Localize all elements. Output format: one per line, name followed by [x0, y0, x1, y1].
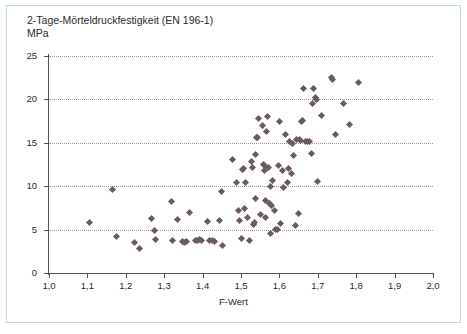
- data-point: [241, 205, 248, 212]
- x-axis-tick: [433, 273, 434, 278]
- x-axis-tick-label: 1,0: [34, 280, 64, 291]
- data-point: [216, 217, 223, 224]
- data-point: [148, 215, 155, 222]
- data-point: [198, 237, 205, 244]
- x-axis-tick: [395, 273, 396, 278]
- y-axis-tick: [44, 186, 49, 187]
- y-axis-tick-label: 0: [11, 267, 37, 278]
- data-point: [314, 178, 321, 185]
- data-point: [168, 198, 175, 205]
- data-point: [264, 113, 271, 120]
- data-point: [113, 233, 120, 240]
- x-axis-tick-label: 1,8: [341, 280, 371, 291]
- data-point: [131, 239, 138, 246]
- data-point: [300, 85, 307, 92]
- data-point: [332, 131, 339, 138]
- data-point: [295, 210, 302, 217]
- y-axis-tick-label: 10: [11, 180, 37, 191]
- y-axis-tick: [44, 143, 49, 144]
- y-axis-tick: [44, 99, 49, 100]
- data-point: [236, 217, 243, 224]
- data-point: [217, 188, 224, 195]
- plot-area: [49, 56, 433, 273]
- data-point: [109, 186, 116, 193]
- data-point: [290, 152, 297, 159]
- x-axis-tick-label: 1,5: [226, 280, 256, 291]
- x-axis-tick: [87, 273, 88, 278]
- x-axis-tick: [203, 273, 204, 278]
- data-point: [204, 218, 211, 225]
- data-point: [292, 222, 299, 229]
- data-point: [318, 111, 325, 118]
- data-point: [229, 156, 236, 163]
- x-axis-tick: [49, 273, 50, 278]
- y-axis-tick-label: 15: [11, 137, 37, 148]
- data-point: [169, 237, 176, 244]
- x-axis-tick: [126, 273, 127, 278]
- data-point: [244, 214, 251, 221]
- data-point: [271, 207, 278, 214]
- x-axis-title: F-Wert: [0, 296, 467, 307]
- x-axis-tick: [279, 273, 280, 278]
- x-axis-tick-label: 1,6: [264, 280, 294, 291]
- data-point: [242, 179, 249, 186]
- x-axis-tick: [356, 273, 357, 278]
- data-point: [282, 131, 289, 138]
- data-point: [255, 115, 262, 122]
- data-point: [249, 164, 256, 171]
- x-axis-tick-label: 1,4: [188, 280, 218, 291]
- data-point: [252, 195, 259, 202]
- data-point: [262, 214, 269, 221]
- x-axis-tick-label: 1,9: [380, 280, 410, 291]
- y-axis-tick-label: 5: [11, 224, 37, 235]
- data-point: [86, 219, 93, 226]
- y-axis-tick-label: 20: [11, 93, 37, 104]
- chart-figure: 2-Tage-Mörteldruckfestigkeit (EN 196-1) …: [0, 0, 467, 334]
- data-point: [340, 100, 347, 107]
- x-axis-tick-label: 1,3: [149, 280, 179, 291]
- data-point: [174, 216, 181, 223]
- chart-title-block: 2-Tage-Mörteldruckfestigkeit (EN 196-1) …: [27, 14, 213, 40]
- data-point: [288, 170, 295, 177]
- data-point: [238, 235, 245, 242]
- gridline-y: [49, 56, 433, 57]
- x-axis-tick-label: 1,1: [72, 280, 102, 291]
- data-point: [151, 227, 158, 234]
- data-point: [136, 245, 143, 252]
- data-point: [233, 179, 240, 186]
- gridline-y: [49, 230, 433, 231]
- y-axis-tick: [44, 56, 49, 57]
- data-point: [246, 237, 253, 244]
- data-point: [308, 150, 315, 157]
- y-axis-line: [48, 54, 49, 275]
- gridline-y: [49, 143, 433, 144]
- data-point: [152, 236, 159, 243]
- y-axis-tick: [44, 230, 49, 231]
- data-point: [186, 209, 193, 216]
- data-point: [355, 78, 362, 85]
- x-axis-tick: [164, 273, 165, 278]
- page-title: 2-Tage-Mörteldruckfestigkeit (EN 196-1): [27, 14, 213, 27]
- x-axis-tick-label: 1,2: [111, 280, 141, 291]
- data-point: [346, 121, 353, 128]
- data-point: [219, 242, 226, 249]
- data-point: [310, 85, 317, 92]
- data-point: [276, 118, 283, 125]
- gridline-y: [49, 186, 433, 187]
- data-point: [252, 151, 259, 158]
- data-point: [299, 117, 306, 124]
- x-axis-tick-label: 1,7: [303, 280, 333, 291]
- x-axis-tick-label: 2,0: [418, 280, 448, 291]
- gridline-y: [49, 99, 433, 100]
- y-axis-unit-label: MPa: [27, 27, 213, 40]
- y-axis-tick-label: 25: [11, 50, 37, 61]
- x-axis-tick: [241, 273, 242, 278]
- x-axis-tick: [318, 273, 319, 278]
- data-point: [263, 128, 270, 135]
